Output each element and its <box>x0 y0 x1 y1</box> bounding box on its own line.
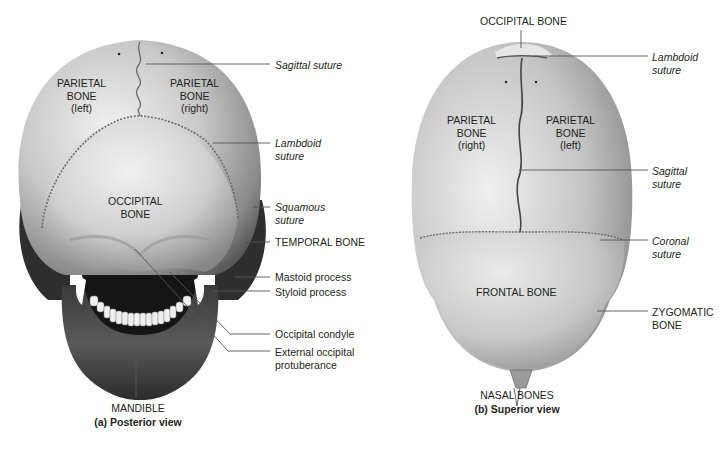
frontal-bone-shape <box>420 231 625 371</box>
text-line: suture <box>652 178 687 191</box>
text-line: BONE <box>546 127 595 140</box>
caption-posterior-view: (a) Posterior view <box>88 416 188 428</box>
label-parietal-left: PARIETAL BONE (left) <box>57 77 106 115</box>
nasal-bones-shape <box>510 370 532 388</box>
text-line: (right) <box>447 139 496 152</box>
text-line: ZYGOMATIC <box>652 306 714 319</box>
label-frontal-bone: FRONTAL BONE <box>476 286 557 299</box>
callout-mandible: MANDIBLE <box>108 402 168 415</box>
text-line: PARIETAL <box>170 77 219 90</box>
text-line: Lambdoid <box>652 51 698 64</box>
text-line: BONE <box>170 90 219 103</box>
text-line: BONE <box>57 90 106 103</box>
text-line: protuberance <box>275 359 354 372</box>
callout-occipital-condyle: Occipital condyle <box>275 328 354 341</box>
text-line: BONE <box>447 127 496 140</box>
label-parietal-right: PARIETAL BONE (right) <box>170 77 219 115</box>
text-line: PARIETAL <box>57 77 106 90</box>
callout-nasal-bones: NASAL BONES <box>472 389 562 402</box>
callout-styloid-process: Styloid process <box>275 286 346 299</box>
text-line: suture <box>652 248 689 261</box>
label-parietal-right-b: PARIETAL BONE (right) <box>447 114 496 152</box>
label-occipital-bone: OCCIPITAL BONE <box>108 195 163 220</box>
callout-temporal-bone: TEMPORAL BONE <box>275 236 365 249</box>
text-line: OCCIPITAL <box>108 195 163 208</box>
text-line: (left) <box>546 139 595 152</box>
text-line: PARIETAL <box>447 114 496 127</box>
superior-skull <box>412 42 633 388</box>
text-line: suture <box>275 150 321 163</box>
text-line: suture <box>652 64 698 77</box>
callout-external-occipital-protuberance: External occipital protuberance <box>275 346 354 371</box>
text-line: (right) <box>170 102 219 115</box>
text-line: External occipital <box>275 346 354 359</box>
text-line: PARIETAL <box>546 114 595 127</box>
callout-coronal-suture: Coronal suture <box>652 235 689 260</box>
text-line: Sagittal <box>652 165 687 178</box>
callout-mastoid-process: Mastoid process <box>275 271 351 284</box>
skull-illustrations <box>0 0 727 454</box>
callout-zygomatic-bone: ZYGOMATIC BONE <box>652 306 714 331</box>
label-parietal-left-b: PARIETAL BONE (left) <box>546 114 595 152</box>
text-line: Coronal <box>652 235 689 248</box>
callout-occipital-bone: OCCIPITAL BONE <box>480 15 564 28</box>
callout-sagittal-suture: Sagittal suture <box>275 59 342 72</box>
text-line: BONE <box>108 208 163 221</box>
callout-lambdoid-suture: Lambdoid suture <box>275 137 321 162</box>
text-line: Lambdoid <box>275 137 321 150</box>
callout-squamous-suture: Squamous suture <box>275 201 325 226</box>
text-line: (left) <box>57 102 106 115</box>
text-line: Squamous <box>275 201 325 214</box>
text-line: BONE <box>652 319 714 332</box>
posterior-skull <box>19 40 266 400</box>
callout-lambdoid-suture-b: Lambdoid suture <box>652 51 698 76</box>
text-line: suture <box>275 214 325 227</box>
callout-sagittal-suture-b: Sagittal suture <box>652 165 687 190</box>
caption-superior-view: (b) Superior view <box>467 403 567 415</box>
